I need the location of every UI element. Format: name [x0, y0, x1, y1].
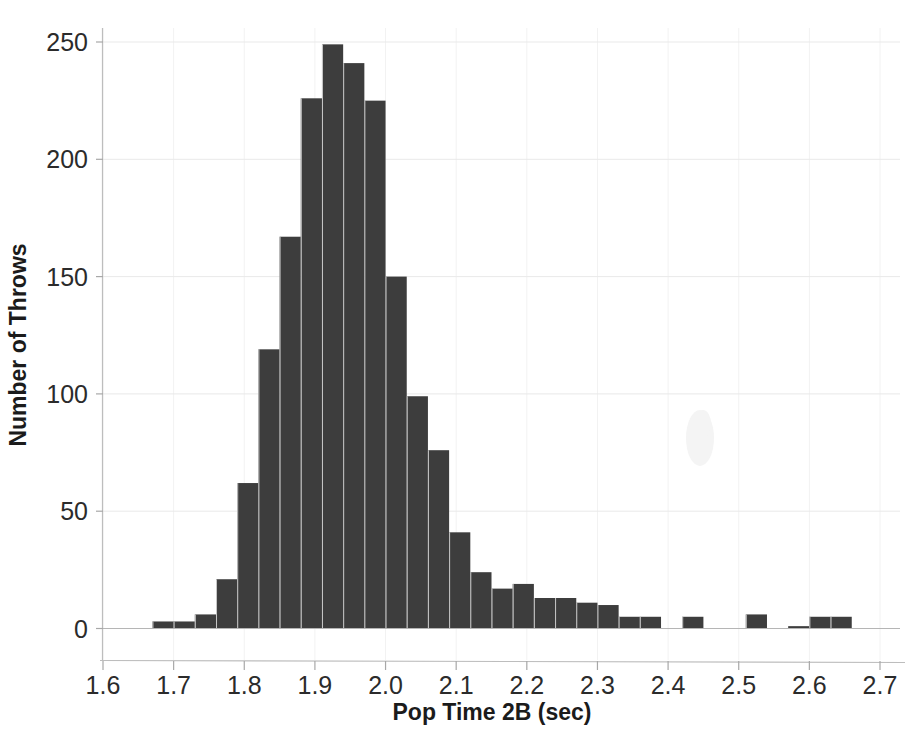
histogram-bar: [195, 614, 216, 628]
histogram-bar: [513, 584, 534, 629]
y-tick-label: 100: [46, 380, 88, 408]
x-tick-label: 1.8: [227, 671, 262, 699]
histogram-bar: [534, 598, 555, 628]
histogram-bar: [619, 617, 640, 629]
y-axis-title: Number of Throws: [5, 243, 31, 446]
y-tick-label: 150: [46, 263, 88, 291]
histogram-bar: [343, 63, 364, 628]
histogram-bar: [174, 621, 195, 628]
y-tick-label: 250: [46, 28, 88, 56]
histogram-svg: 050100150200250 1.61.71.81.92.02.12.22.3…: [0, 0, 913, 734]
histogram-bar: [492, 589, 513, 629]
x-tick-label: 1.7: [156, 671, 191, 699]
x-tick-label: 2.7: [863, 671, 898, 699]
x-tick-label: 2.5: [721, 671, 756, 699]
histogram-bar: [746, 614, 767, 628]
x-tick-label: 2.6: [792, 671, 827, 699]
x-tick-label: 2.4: [651, 671, 686, 699]
histogram-bar: [640, 617, 661, 629]
histogram-bar: [216, 579, 237, 628]
histogram-bar: [152, 621, 173, 628]
histogram-figure: 050100150200250 1.61.71.81.92.02.12.22.3…: [0, 0, 913, 734]
x-tick-label: 1.9: [298, 671, 333, 699]
histogram-bar: [258, 349, 279, 628]
y-tick-label: 200: [46, 145, 88, 173]
histogram-bar: [428, 450, 449, 628]
histogram-bar: [364, 101, 385, 629]
histogram-bar: [449, 532, 470, 628]
x-tick-label: 2.2: [509, 671, 544, 699]
x-tick-label: 2.0: [368, 671, 403, 699]
y-tick-label: 50: [60, 497, 88, 525]
scan-artifact-2: [695, 410, 711, 438]
histogram-bar: [470, 572, 491, 628]
histogram-bar: [322, 44, 343, 628]
x-tick-label: 1.6: [86, 671, 121, 699]
histogram-bar: [407, 396, 428, 628]
x-tick-label: 2.3: [580, 671, 615, 699]
histogram-bar: [301, 98, 322, 628]
histogram-bar: [597, 605, 618, 628]
histogram-bar: [237, 483, 258, 628]
y-tick-label: 0: [74, 615, 88, 643]
histogram-bar: [809, 617, 830, 629]
x-tick-label: 2.1: [439, 671, 474, 699]
x-axis-title: Pop Time 2B (sec): [393, 699, 592, 725]
histogram-bar: [682, 617, 703, 629]
histogram-bar: [576, 603, 597, 629]
histogram-bar: [280, 237, 301, 629]
histogram-bar: [555, 598, 576, 628]
histogram-bar: [831, 617, 852, 629]
histogram-bar: [386, 277, 407, 629]
